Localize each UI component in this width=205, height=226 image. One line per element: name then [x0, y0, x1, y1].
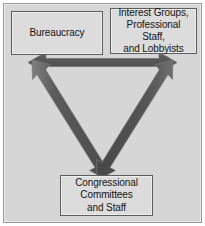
node-interest-groups-label: Interest Groups, Professional Staff, and… [111, 7, 196, 56]
node-congressional: Congressional Committees and Staff [60, 175, 153, 216]
node-congressional-label: Congressional Committees and Staff [72, 177, 141, 214]
diagram-canvas: Bureaucracy Interest Groups, Professiona… [0, 0, 205, 226]
node-interest-groups: Interest Groups, Professional Staff, and… [110, 8, 197, 54]
node-bureaucracy: Bureaucracy [11, 11, 103, 55]
node-bureaucracy-label: Bureaucracy [26, 27, 87, 39]
right-connector-arrow [97, 60, 174, 180]
